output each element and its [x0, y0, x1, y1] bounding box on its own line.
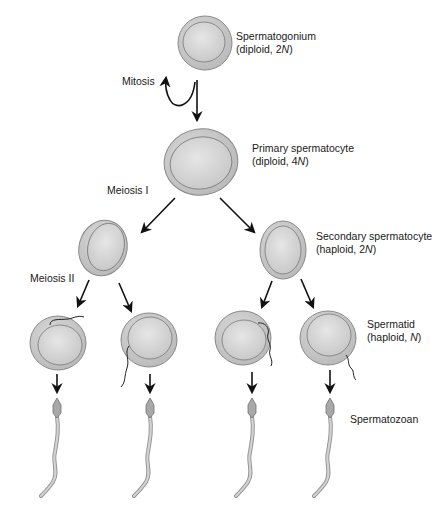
arrow-meiosis2-rl [262, 281, 272, 307]
spermatozoan-2 [134, 398, 154, 496]
label-meiosis2: Meiosis II [30, 272, 74, 285]
arrow-meiosis2-lr [119, 283, 131, 311]
mitosis-arrow [166, 78, 195, 106]
spermatozoan-4 [314, 398, 334, 496]
label-meiosis1: Meiosis I [107, 184, 148, 197]
cell-primary-spermatocyte [159, 123, 243, 201]
sperm-head [146, 398, 154, 418]
label-spermatozoan: Spermatozoan [350, 413, 418, 426]
label-primary-spermatocyte: Primary spermatocyte (diploid, 4N) [252, 142, 354, 168]
stage-name: Primary spermatocyte [252, 142, 354, 155]
stage-name: Spermatogonium [236, 30, 316, 43]
arrow-meiosis1-right [220, 198, 254, 232]
arrow-meiosis2-rr [301, 279, 313, 307]
stage-name: Secondary spermatocyte [316, 230, 432, 243]
label-spermatid: Spermatid (haploid, N) [367, 318, 421, 344]
sperm-head [326, 398, 334, 418]
cell-spermatid-2 [121, 313, 177, 387]
stage-ploidy: (diploid, 4N) [252, 155, 354, 168]
sperm-head [248, 398, 256, 418]
stage-name: Spermatid [367, 318, 421, 331]
spermatozoan-3 [236, 398, 256, 496]
stage-ploidy: (haploid, 2N) [316, 243, 432, 256]
label-secondary-spermatocyte: Secondary spermatocyte (haploid, 2N) [316, 230, 432, 256]
cell-spermatogonium [178, 16, 232, 70]
cell-spermatid-3 [215, 311, 272, 366]
arrow-meiosis1-left [142, 198, 175, 232]
cell-spermatid-4 [300, 311, 356, 380]
arrow-meiosis2-ll [78, 280, 89, 306]
stage-ploidy: (diploid, 2N) [236, 43, 316, 56]
label-mitosis: Mitosis [122, 75, 155, 88]
spermatogenesis-diagram: Spermatogonium (diploid, 2N) Mitosis Pri… [0, 0, 446, 511]
spermatozoan-1 [41, 398, 61, 496]
cell-secondary-spermatocyte-left [73, 215, 134, 282]
label-spermatogonium: Spermatogonium (diploid, 2N) [236, 30, 316, 56]
sperm-head [53, 398, 61, 418]
stage-ploidy: (haploid, N) [367, 331, 421, 344]
cell-secondary-spermatocyte-right [260, 221, 306, 279]
cell-spermatid-1 [30, 316, 86, 370]
